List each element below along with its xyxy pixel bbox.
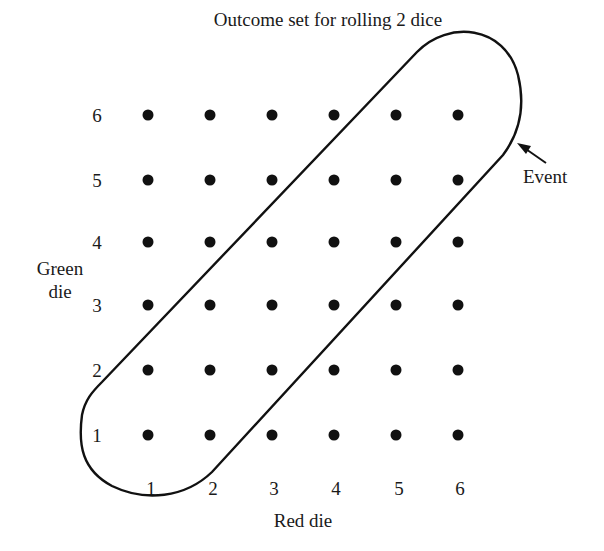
outcome-dot-3-3 <box>267 300 278 311</box>
outcome-dot-1-5 <box>143 175 154 186</box>
outcome-dot-6-3 <box>453 300 464 311</box>
outcome-dot-2-3 <box>205 300 216 311</box>
outcome-dot-6-6 <box>453 110 464 121</box>
red-die-tick: 5 <box>394 478 404 499</box>
diagram-title: Outcome set for rolling 2 dice <box>214 9 442 30</box>
outcome-dot-2-2 <box>205 365 216 376</box>
outcome-dot-3-4 <box>267 237 278 248</box>
outcome-dot-5-1 <box>391 430 402 441</box>
red-die-tick: 6 <box>455 478 465 499</box>
outcome-dot-3-1 <box>267 430 278 441</box>
outcome-dot-2-5 <box>205 175 216 186</box>
outcome-dot-3-6 <box>267 110 278 121</box>
outcome-dot-3-2 <box>267 365 278 376</box>
outcome-dot-6-1 <box>453 430 464 441</box>
outcome-dot-5-6 <box>391 110 402 121</box>
red-die-ticks: 123456 <box>146 478 465 499</box>
outcome-dot-1-1 <box>143 430 154 441</box>
outcome-dot-6-4 <box>453 237 464 248</box>
event-region-outline <box>81 32 521 496</box>
green-die-label-line2: die <box>48 281 71 302</box>
outcome-dot-5-5 <box>391 175 402 186</box>
outcome-dots <box>143 110 464 441</box>
outcome-dot-4-4 <box>329 237 340 248</box>
outcome-dot-1-3 <box>143 300 154 311</box>
outcome-dot-6-2 <box>453 365 464 376</box>
outcome-dot-2-1 <box>205 430 216 441</box>
red-die-tick: 2 <box>208 478 218 499</box>
green-die-ticks: 123456 <box>92 105 102 446</box>
red-die-tick: 3 <box>269 478 279 499</box>
outcome-dot-4-6 <box>329 110 340 121</box>
outcome-dot-1-6 <box>143 110 154 121</box>
outcome-dot-1-4 <box>143 237 154 248</box>
green-die-tick: 3 <box>92 295 102 316</box>
outcome-dot-1-2 <box>143 365 154 376</box>
outcome-dot-4-2 <box>329 365 340 376</box>
red-die-tick: 4 <box>331 478 341 499</box>
green-die-tick: 6 <box>92 105 102 126</box>
outcome-dot-3-5 <box>267 175 278 186</box>
outcome-dot-5-4 <box>391 237 402 248</box>
outcome-dot-2-6 <box>205 110 216 121</box>
outcome-dot-4-3 <box>329 300 340 311</box>
green-die-tick: 4 <box>92 232 102 253</box>
red-die-label: Red die <box>274 510 333 531</box>
outcome-dot-6-5 <box>453 175 464 186</box>
event-arrow-icon <box>517 143 546 163</box>
outcome-dot-5-2 <box>391 365 402 376</box>
outcome-dot-5-3 <box>391 300 402 311</box>
green-die-label-line1: Green <box>37 258 84 279</box>
outcome-set-diagram: Outcome set for rolling 2 dice 123456 12… <box>0 0 604 551</box>
outcome-dot-2-4 <box>205 237 216 248</box>
green-die-tick: 1 <box>92 425 102 446</box>
green-die-tick: 2 <box>92 360 102 381</box>
event-label: Event <box>523 166 568 187</box>
outcome-dot-4-1 <box>329 430 340 441</box>
green-die-tick: 5 <box>92 170 102 191</box>
outcome-dot-4-5 <box>329 175 340 186</box>
